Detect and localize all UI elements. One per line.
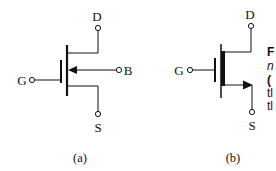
drain-lead (68, 31, 98, 53)
source-terminal-circle (249, 109, 254, 114)
panel-caption-b: (b) (226, 151, 241, 165)
source-terminal-circle (95, 111, 100, 116)
caption-fragment-4: tl (267, 99, 273, 113)
drain-label-b: D (245, 7, 254, 22)
gate-terminal-circle (29, 77, 34, 82)
source-label-b: S (248, 118, 255, 133)
source-label-a: S (94, 120, 101, 135)
gate-terminal-circle (187, 67, 192, 72)
body-terminal-a (68, 66, 122, 74)
caption-fragment-0: F (267, 45, 274, 59)
gate-terminal-a (29, 77, 61, 82)
drain-label-a: D (92, 9, 101, 24)
source-lead (68, 86, 98, 111)
gate-terminal-b (187, 67, 215, 72)
drain-terminal-circle (95, 25, 100, 30)
side-caption-fragment: F n ( tl tl (267, 45, 274, 113)
caption-fragment-2: ( (267, 73, 271, 87)
gate-label-a: G (17, 73, 26, 88)
source-terminal-a (68, 86, 101, 117)
drain-terminal-b (224, 23, 254, 52)
panel-b (187, 23, 254, 114)
mosfet-figure: D G B S (a) D G S (b) F n ( (0, 0, 276, 171)
drain-terminal-circle (248, 23, 253, 28)
source-terminal-b (224, 81, 255, 115)
panel-a (29, 25, 121, 116)
body-arrow-icon (68, 66, 77, 74)
caption-fragment-1: n (267, 59, 274, 73)
gate-label-b: G (174, 63, 183, 78)
body-label-a: B (124, 63, 133, 78)
caption-fragment-3: tl (267, 86, 273, 100)
panel-caption-a: (a) (73, 151, 87, 165)
drain-terminal-a (68, 25, 101, 53)
channel-body-bar (221, 51, 225, 86)
body-terminal-circle (116, 67, 121, 72)
drain-lead (224, 29, 251, 52)
